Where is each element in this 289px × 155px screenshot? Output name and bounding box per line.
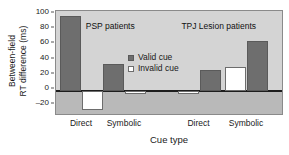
x-axis-title: Cue type [55,134,283,145]
x-axis-tick-label: Direct [187,118,209,128]
group-label-tpj: TPJ Lesion patients [181,21,256,31]
y-axis-tick-label: 20 [40,69,49,77]
y-axis-tick-mark [51,103,54,104]
y-axis-tick-mark [51,27,54,28]
group-label-psp: PSP patients [86,21,135,31]
y-axis-tick-label: 40 [40,54,49,62]
bar-psp-patients-direct-valid-cue [60,16,81,91]
bar-tpj-lesion-patients-direct-valid-cue [200,70,221,91]
y-axis-tick-label: 60 [40,38,49,46]
legend-label-valid-cue: Valid cue [138,52,172,63]
x-axis-tick-label: Direct [70,118,92,128]
y-axis-title-line2: RT difference (ms) [17,26,28,97]
y-axis-tick-label: 80 [40,23,49,31]
bar-tpj-lesion-patients-symbolic-valid-cue [247,41,268,91]
bar-psp-patients-symbolic-valid-cue [103,64,124,91]
y-axis-tick-label: 0 [45,84,49,92]
bar-psp-patients-direct-invalid-cue [82,91,103,110]
x-axis-tick-label: Symbolic [107,118,141,128]
y-axis-tick-label: –20 [36,99,49,107]
x-axis-tick-label: Symbolic [229,118,263,128]
bar-tpj-lesion-patients-symbolic-invalid-cue [225,67,246,91]
y-axis-tick-mark [51,88,54,89]
y-axis-tick-mark [51,72,54,73]
y-axis-tick-mark [51,42,54,43]
legend-swatch-valid-cue-icon [128,55,134,61]
bar-psp-patients-symbolic-invalid-cue [125,91,146,94]
y-axis-tick-label: 100 [36,8,49,16]
legend-swatch-invalid-cue-icon [128,66,134,72]
bar-tpj-lesion-patients-direct-invalid-cue [178,91,199,94]
chart-legend: Valid cue Invalid cue [128,52,179,74]
y-axis-tick-labels: 100806040200–20 [28,8,52,108]
legend-item-valid-cue: Valid cue [128,52,179,63]
legend-item-invalid-cue: Invalid cue [128,63,179,74]
x-axis-tick-labels: DirectSymbolicDirectSymbolic [55,118,283,130]
y-axis-title-line1: Between-field [7,26,18,97]
y-axis-tick-mark [51,57,54,58]
chart-figure: Between-field RT difference (ms) 1008060… [0,0,289,155]
y-axis-tick-mark [51,11,54,12]
legend-label-invalid-cue: Invalid cue [138,63,179,74]
